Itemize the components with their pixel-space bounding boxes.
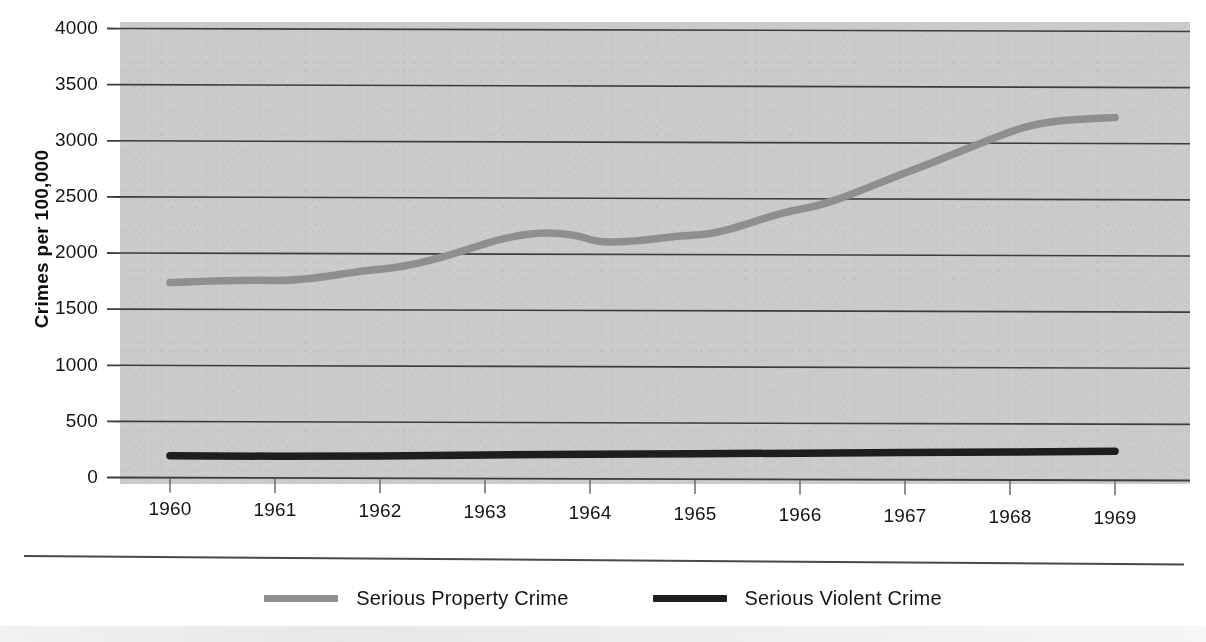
- plot-svg: [0, 0, 1206, 530]
- legend-item-serious-violent-crime[interactable]: Serious Violent Crime: [653, 587, 942, 610]
- y-tick-label-3000: 3000: [14, 129, 98, 151]
- y-tick-label-4000: 4000: [14, 17, 98, 39]
- y-tick-marks: [107, 29, 120, 422]
- x-tick-label-1963: 1963: [430, 501, 540, 523]
- page-edge-artifact: [0, 626, 1206, 642]
- x-tick-label-1964: 1964: [535, 502, 645, 524]
- y-tick-label-1000: 1000: [14, 354, 98, 376]
- legend-swatch-property-icon: [264, 595, 338, 602]
- y-axis-title: Crimes per 100,000: [31, 119, 53, 359]
- series-line-serious-violent-crime: [170, 451, 1115, 456]
- x-tick-label-1960: 1960: [115, 498, 225, 520]
- gridline-4000: [120, 29, 1190, 32]
- x-tick-label-1968: 1968: [955, 506, 1065, 528]
- gridline-500: [120, 421, 1190, 424]
- x-tick-label-1966: 1966: [745, 504, 855, 526]
- legend-separator-rule: [24, 555, 1184, 566]
- x-tick-label-1962: 1962: [325, 500, 435, 522]
- gridline-1000: [120, 365, 1190, 368]
- axis-baseline: [107, 478, 1190, 481]
- x-tick-label-1969: 1969: [1060, 507, 1170, 529]
- y-tick-label-1500: 1500: [14, 297, 98, 319]
- crime-rate-line-chart: 4000 3500 3000 2500 2000 1500 1000 500 0…: [0, 0, 1206, 642]
- chart-legend: Serious Property Crime Serious Violent C…: [0, 578, 1206, 618]
- x-tick-marks: [170, 479, 1115, 496]
- legend-swatch-violent-icon: [653, 595, 727, 602]
- gridline-2000: [120, 253, 1190, 256]
- gridline-2500: [120, 197, 1190, 200]
- gridline-3000: [120, 141, 1190, 144]
- chart-plot-region: 4000 3500 3000 2500 2000 1500 1000 500 0…: [0, 0, 1206, 530]
- y-tick-label-2500: 2500: [14, 185, 98, 207]
- legend-item-serious-property-crime[interactable]: Serious Property Crime: [264, 587, 568, 610]
- gridline-3500: [120, 85, 1190, 88]
- legend-label-serious-violent-crime: Serious Violent Crime: [745, 587, 942, 610]
- gridlines: [120, 29, 1190, 425]
- legend-label-serious-property-crime: Serious Property Crime: [356, 587, 568, 610]
- y-tick-label-3500: 3500: [14, 73, 98, 95]
- gridline-1500: [120, 309, 1190, 312]
- x-tick-label-1967: 1967: [850, 505, 960, 527]
- y-tick-label-2000: 2000: [14, 241, 98, 263]
- y-tick-label-500: 500: [14, 410, 98, 432]
- x-tick-label-1961: 1961: [220, 499, 330, 521]
- y-tick-label-0: 0: [14, 466, 98, 488]
- x-tick-label-1965: 1965: [640, 503, 750, 525]
